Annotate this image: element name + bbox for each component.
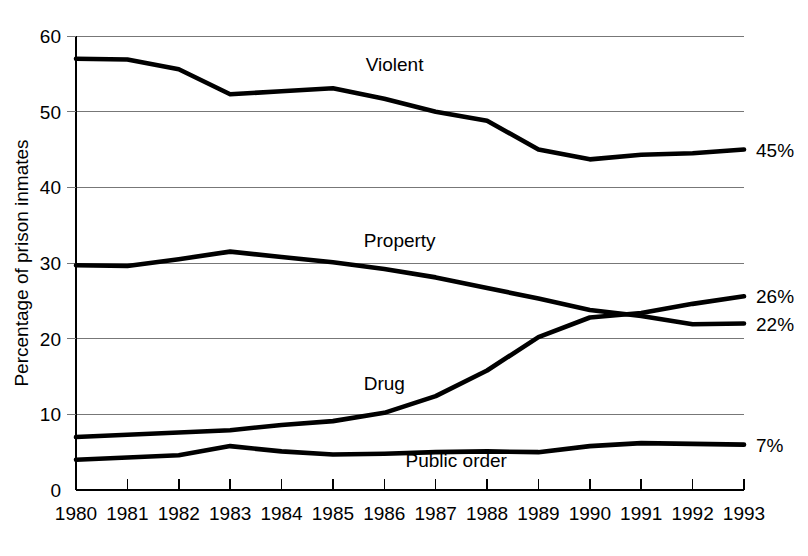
series-label-drug: Drug — [364, 373, 405, 394]
x-tick-label-1993: 1993 — [723, 503, 765, 524]
y-tick-label-30: 30 — [40, 253, 61, 274]
x-tick-label-1990: 1990 — [569, 503, 611, 524]
x-tick-label-1982: 1982 — [158, 503, 200, 524]
x-tick-label-1980: 1980 — [55, 503, 97, 524]
y-tick-label-40: 40 — [40, 177, 61, 198]
data-series — [76, 59, 744, 460]
y-axis-title: Percentage of prison inmates — [11, 139, 32, 386]
y-tick-label-60: 60 — [40, 26, 61, 47]
end-label-drug: 26% — [756, 286, 794, 307]
x-tick-label-1991: 1991 — [620, 503, 662, 524]
end-label-public-order: 7% — [756, 435, 784, 456]
series-label-violent: Violent — [366, 54, 424, 75]
series-label-property: Property — [364, 230, 436, 251]
x-tick-label-1983: 1983 — [209, 503, 251, 524]
x-tick-label-1988: 1988 — [466, 503, 508, 524]
x-tick-label-1981: 1981 — [106, 503, 148, 524]
chart-figure: 0102030405060 19801981198219831984198519… — [0, 0, 808, 556]
x-tick-label-1984: 1984 — [260, 503, 303, 524]
end-label-violent: 45% — [756, 140, 794, 161]
y-tick-label-0: 0 — [50, 480, 61, 501]
gridlines — [76, 36, 744, 414]
x-tick-label-1992: 1992 — [671, 503, 713, 524]
y-tick-label-20: 20 — [40, 329, 61, 350]
x-axis-tick-labels: 1980198119821983198419851986198719881989… — [55, 503, 765, 524]
x-tick-label-1986: 1986 — [363, 503, 405, 524]
y-tick-label-10: 10 — [40, 404, 61, 425]
y-tick-label-50: 50 — [40, 102, 61, 123]
line-chart: 0102030405060 19801981198219831984198519… — [0, 0, 808, 556]
end-label-property: 22% — [756, 314, 794, 335]
series-end-value-labels: 45%22%26%7% — [756, 140, 794, 456]
x-tick-label-1989: 1989 — [517, 503, 559, 524]
series-label-public-order: Public order — [406, 450, 508, 471]
y-axis-tick-labels: 0102030405060 — [40, 26, 61, 501]
x-tick-label-1987: 1987 — [415, 503, 457, 524]
x-tick-label-1985: 1985 — [312, 503, 354, 524]
